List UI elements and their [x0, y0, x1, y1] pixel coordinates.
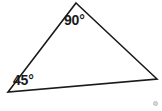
- angle-label-apex: 90°: [64, 13, 85, 27]
- corner-speck-artifact: [153, 101, 158, 106]
- angle-label-left: 45°: [13, 73, 34, 87]
- geometry-figure: 90° 45°: [0, 0, 162, 111]
